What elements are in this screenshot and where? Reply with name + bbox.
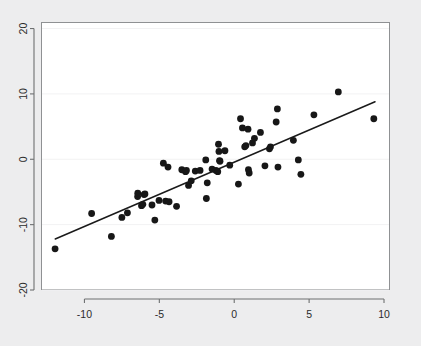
scatter-point (215, 141, 222, 148)
scatter-point (214, 168, 221, 175)
y-tick-label: 10 (17, 88, 29, 100)
scatter-point (142, 191, 149, 198)
x-tick-label: 5 (306, 308, 312, 320)
scatter-point (295, 157, 302, 164)
scatter-point (262, 162, 269, 169)
scatter-point (118, 214, 125, 221)
scatter-point (124, 209, 131, 216)
scatter-point (202, 157, 209, 164)
scatter-point (275, 164, 282, 171)
scatter-point (156, 197, 163, 204)
scatter-point (88, 210, 95, 217)
y-tick-label: -20 (17, 282, 29, 297)
scatter-point (52, 245, 59, 252)
scatter-point (335, 89, 342, 96)
scatter-point (165, 164, 172, 171)
scatter-point (273, 119, 280, 126)
scatter-point (370, 115, 377, 122)
x-tick-label: 0 (231, 308, 237, 320)
scatter-point (274, 106, 281, 113)
x-axis-tick-labels: -10-50510 (77, 308, 390, 320)
scatter-point (257, 129, 264, 136)
axes-group (34, 29, 384, 299)
scatter-point (245, 126, 252, 133)
y-tick-label: -10 (17, 217, 29, 232)
scatter-point (243, 142, 250, 149)
scatter-point (297, 171, 304, 178)
x-tick-label: -5 (155, 308, 164, 320)
scatter-point (290, 137, 297, 144)
plot-svg-canvas: -10-50510 -20-1001020 (0, 0, 421, 346)
scatter-plot-figure: -10-50510 -20-1001020 (0, 0, 421, 346)
scatter-point (204, 179, 211, 186)
scatter-point (108, 233, 115, 240)
scatter-point (149, 202, 156, 209)
scatter-point (151, 217, 158, 224)
y-tick-label: 20 (17, 23, 29, 35)
scatter-point (216, 148, 223, 155)
scatter-point (246, 170, 253, 177)
x-tick-label: 10 (378, 308, 390, 320)
scatter-point (139, 201, 146, 208)
scatter-point (188, 177, 195, 184)
scatter-markers-group (52, 89, 378, 253)
gridlines-group (42, 29, 389, 290)
scatter-point (226, 162, 233, 169)
scatter-point (183, 167, 190, 174)
scatter-point (173, 203, 180, 210)
scatter-point (235, 181, 242, 188)
scatter-point (217, 158, 224, 165)
scatter-point (311, 111, 318, 118)
scatter-point (197, 167, 204, 174)
scatter-point (237, 115, 244, 122)
y-axis-tick-labels: -20-1001020 (17, 23, 29, 298)
scatter-point (166, 198, 173, 205)
x-tick-label: -10 (77, 308, 92, 320)
y-tick-label: 0 (17, 156, 29, 162)
scatter-point (222, 147, 229, 154)
scatter-point (203, 195, 210, 202)
scatter-point (251, 135, 258, 142)
tickmarks-group (30, 29, 384, 303)
scatter-point (134, 190, 141, 197)
scatter-point (267, 143, 274, 150)
